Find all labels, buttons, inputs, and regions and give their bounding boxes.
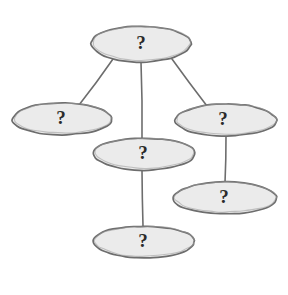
- nodes-layer: ??????: [12, 26, 278, 258]
- edge-node-top-to-node-left: [79, 59, 113, 105]
- node-left-label: ?: [56, 107, 66, 128]
- node-left[interactable]: ?: [12, 103, 112, 135]
- node-bottom-right-label: ?: [219, 186, 229, 207]
- diagram-canvas: ??????: [0, 0, 288, 295]
- edge-node-top-to-node-middle: [141, 62, 142, 138]
- node-right-label: ?: [218, 108, 228, 129]
- edge-node-top-to-node-right: [172, 59, 207, 106]
- node-top[interactable]: ?: [91, 26, 192, 62]
- edge-node-middle-to-node-bottom: [142, 170, 143, 226]
- node-middle[interactable]: ?: [93, 138, 195, 170]
- edge-node-right-to-node-bottom-right: [225, 136, 226, 183]
- node-bottom[interactable]: ?: [93, 226, 194, 258]
- node-right[interactable]: ?: [175, 104, 278, 136]
- node-link-diagram: ??????: [0, 0, 288, 295]
- node-middle-label: ?: [138, 142, 148, 163]
- node-bottom-label: ?: [138, 230, 148, 251]
- node-bottom-right[interactable]: ?: [173, 182, 277, 214]
- node-top-label: ?: [136, 32, 146, 53]
